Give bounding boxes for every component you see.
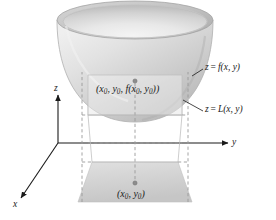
- surface-equation-text: z = f(x, y): [205, 62, 240, 72]
- tangent-plane-equation-text: z = L(x, y): [205, 104, 243, 114]
- tangent-plane-equation-label: z = L(x, y): [205, 105, 243, 115]
- point-on-surface-text: (x0, y0, f(x0, y0)): [96, 83, 159, 94]
- axis-x: [21, 143, 58, 198]
- axis-label-x: x: [13, 200, 17, 210]
- point-in-plane-label: (x0, y0): [117, 189, 145, 201]
- point-in-plane-text: (x0, y0): [117, 188, 145, 199]
- axis-label-z: z: [54, 84, 58, 94]
- surface-equation-label: z = f(x, y): [205, 63, 240, 73]
- tangent-plane-figure: z y x z = f(x, y) z = L(x, y) (x0, y0, f…: [0, 0, 276, 220]
- axis-label-y: y: [232, 138, 236, 148]
- point-on-surface-label: (x0, y0, f(x0, y0)): [96, 84, 159, 96]
